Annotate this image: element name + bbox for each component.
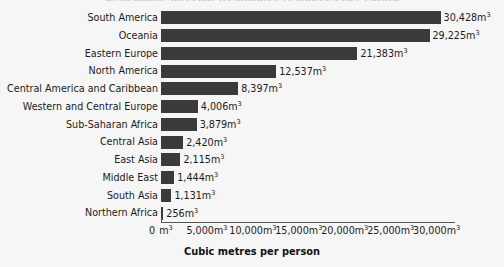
x-axis-ticks: 0 m3 5,000m310,000m315,000m320,000m325,0… <box>0 225 504 241</box>
x-tick-label-15000: 15,000m3 <box>275 225 322 236</box>
bar[interactable] <box>161 118 197 131</box>
bar[interactable] <box>161 100 198 113</box>
bar-row: South Asia1,131m3 <box>0 187 504 205</box>
x-tick-unit-0: m3 <box>159 225 173 236</box>
bar-value-label: 2,115m3 <box>180 153 224 166</box>
bar[interactable] <box>161 11 441 24</box>
bar-track: 4,006m3 <box>161 98 504 116</box>
bar-category-label: East Asia <box>114 151 161 169</box>
bar-row: Middle East1,444m3 <box>0 169 504 187</box>
x-axis-title: Cubic metres per person <box>0 246 504 257</box>
bar-rows: South America30,428m3Oceania29,225m3East… <box>0 9 504 222</box>
bar-value-label: 2,420m3 <box>183 136 227 149</box>
bar-chart: Renewable internal freshwater resources … <box>0 0 504 267</box>
bar-value-label: 1,444m3 <box>174 171 218 184</box>
bar-track: 1,444m3 <box>161 169 504 187</box>
bar-category-label: Oceania <box>119 27 161 45</box>
bar[interactable] <box>161 189 171 202</box>
bar-row: Oceania29,225m3 <box>0 27 504 45</box>
bar-track: 2,115m3 <box>161 151 504 169</box>
bar-track: 256m3 <box>161 204 504 222</box>
bar-value-label: 3,879m3 <box>197 118 241 131</box>
bar-category-label: South Asia <box>107 187 161 205</box>
bar-category-label: Central Asia <box>100 133 161 151</box>
bar-row: Sub-Saharan Africa3,879m3 <box>0 116 504 134</box>
bar-track: 3,879m3 <box>161 116 504 134</box>
bar[interactable] <box>161 82 238 95</box>
bar-row: East Asia2,115m3 <box>0 151 504 169</box>
bar-category-label: Central America and Caribbean <box>7 80 161 98</box>
bar-row: South America30,428m3 <box>0 9 504 27</box>
bar-row: North America12,537m3 <box>0 62 504 80</box>
x-tick-label-5000: 5,000m3 <box>186 225 227 236</box>
bar-row: Eastern Europe21,383m3 <box>0 45 504 63</box>
bar-row: Western and Central Europe4,006m3 <box>0 98 504 116</box>
bar[interactable] <box>161 171 174 184</box>
bar-track: 29,225m3 <box>161 27 504 45</box>
bar-track: 8,397m3 <box>161 80 504 98</box>
bar-row: Northern Africa256m3 <box>0 204 504 222</box>
bar-category-label: North America <box>89 62 161 80</box>
bar-track: 2,420m3 <box>161 133 504 151</box>
bar-category-label: Middle East <box>103 169 161 187</box>
bar-category-label: Eastern Europe <box>85 45 161 63</box>
bar[interactable] <box>161 153 180 166</box>
x-tick-label-25000: 25,000m3 <box>367 225 414 236</box>
bar-track: 30,428m3 <box>161 9 504 27</box>
bar-value-label: 1,131m3 <box>171 189 215 202</box>
bar[interactable] <box>161 136 183 149</box>
x-tick-label-30000: 30,000m3 <box>413 225 460 236</box>
bar[interactable] <box>161 29 430 42</box>
bar-value-label: 8,397m3 <box>238 82 282 95</box>
bar-row: Central Asia2,420m3 <box>0 133 504 151</box>
bar-category-label: Sub-Saharan Africa <box>66 116 161 134</box>
bar[interactable] <box>161 47 357 60</box>
bar-value-label: 12,537m3 <box>276 65 326 78</box>
bar-category-label: South America <box>87 9 161 27</box>
bar-category-label: Western and Central Europe <box>23 98 161 116</box>
bar-track: 1,131m3 <box>161 187 504 205</box>
bar-value-label: 21,383m3 <box>357 47 407 60</box>
x-tick-label-0: 0 <box>149 225 155 236</box>
bar-value-label: 4,006m3 <box>198 100 242 113</box>
x-tick-label-10000: 10,000m3 <box>229 225 276 236</box>
bar-row: Central America and Caribbean8,397m3 <box>0 80 504 98</box>
x-tick-label-20000: 20,000m3 <box>321 225 368 236</box>
bar-category-label: Northern Africa <box>85 204 161 222</box>
bar-value-label: 29,225m3 <box>430 29 480 42</box>
chart-title-remnant: Renewable internal freshwater resources … <box>0 0 504 1</box>
bar-track: 21,383m3 <box>161 45 504 63</box>
bar-track: 12,537m3 <box>161 62 504 80</box>
bar-value-label: 30,428m3 <box>441 11 491 24</box>
bar[interactable] <box>161 65 276 78</box>
bar-value-label: 256m3 <box>163 207 198 220</box>
